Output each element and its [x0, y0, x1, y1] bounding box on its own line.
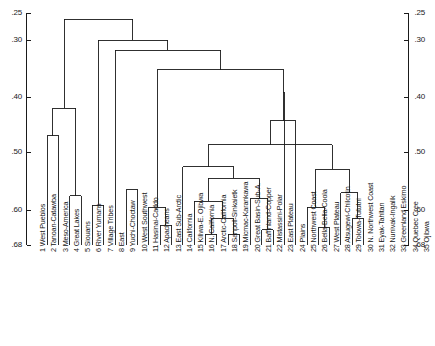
leaf-label-8: 8 East [118, 233, 125, 252]
leaf-label-35: 35 Ojibwa [423, 221, 430, 252]
leaf-label-26: 26 Bella-Bella-Coola [321, 189, 328, 252]
axis-tick-left-0: .25 [2, 9, 22, 17]
axis-tick-left-1: .30 [2, 36, 22, 44]
leaf-label-9: 9 Yuchi-Choctaw [129, 200, 136, 252]
leaf-label-22: 22 Mistassini-Polar [276, 194, 283, 252]
leaf-label-17: 17 Arctic-California [220, 195, 227, 252]
axis-tick-right-3: .50 [415, 148, 426, 156]
leaf-label-18: 18 Sanpoil-Sinkaietk [231, 189, 238, 252]
leaf-label-24: 24 Plains [299, 224, 306, 252]
dendrogram-canvas [0, 0, 435, 346]
leaf-label-25: 25 Northwest Coast [310, 192, 317, 252]
leaf-label-6: 6 River Yumans [95, 203, 102, 252]
axis-left [27, 13, 32, 245]
leaf-label-5: 5 Siouans [84, 221, 91, 252]
leaf-label-11: 11 Hasinai-Caddo [152, 197, 159, 252]
leaf-label-7: 7 Village Tribes [107, 205, 114, 252]
leaf-label-23: 23 East Plateau [287, 204, 294, 253]
leaf-label-21: 21 Baffinland-Copper [265, 187, 272, 252]
leaf-label-29: 29 Tolowa-Tututni [355, 198, 362, 252]
leaf-label-12: 12 Apacheans [163, 208, 170, 252]
axis-tick-right-0: .25 [415, 9, 426, 17]
axis-tick-left-4: .60 [2, 206, 22, 214]
leaf-label-33: 33 Greenland Eskimo [400, 186, 407, 252]
axis-tick-left-2: .40 [2, 93, 22, 101]
leaf-label-27: 27 West Plateau [333, 202, 340, 252]
leaf-label-31: 31 Eyak-Tahltan [378, 203, 385, 252]
leaf-label-15: 15 Kiliwa-E. Ojibwa [197, 193, 204, 252]
leaf-label-10: 10 West Southwest [141, 193, 148, 252]
leaf-label-28: 28 Atsugewi-Chilcotin [344, 186, 351, 252]
leaf-label-20: 20 Great Basin-Sub-A. [254, 183, 261, 252]
dendrogram-figure: .25.30.40.50.60.68 .25.30.40.50.60.68 1 … [0, 0, 435, 346]
axis-tick-left-5: .68 [2, 241, 22, 249]
leaf-label-4: 4 Great Lakes [73, 209, 80, 252]
axis-tick-left-3: .50 [2, 148, 22, 156]
axis-tick-right-1: .30 [415, 36, 426, 44]
axis-tick-right-2: .40 [415, 93, 426, 101]
leaf-label-13: 13 East Sub-Arctic [175, 195, 182, 252]
leaf-label-14: 14 California [186, 214, 193, 252]
leaf-label-34: 34 Quebec Cree [412, 201, 419, 252]
leaf-label-1: 1 West Pueblos [39, 204, 46, 252]
leaf-label-16: 16 N. California [208, 205, 215, 252]
leaf-label-2: 2 Tanoan-Catawba [50, 194, 57, 252]
leaf-label-30: 30 N. Northwest Coast [367, 183, 374, 252]
leaf-label-32: 32 Nunivak-Ingalik [389, 196, 396, 252]
leaf-label-3: 3 Meso-America [62, 202, 69, 252]
leaf-label-19: 19 Micmac-Karankawa [242, 182, 249, 252]
